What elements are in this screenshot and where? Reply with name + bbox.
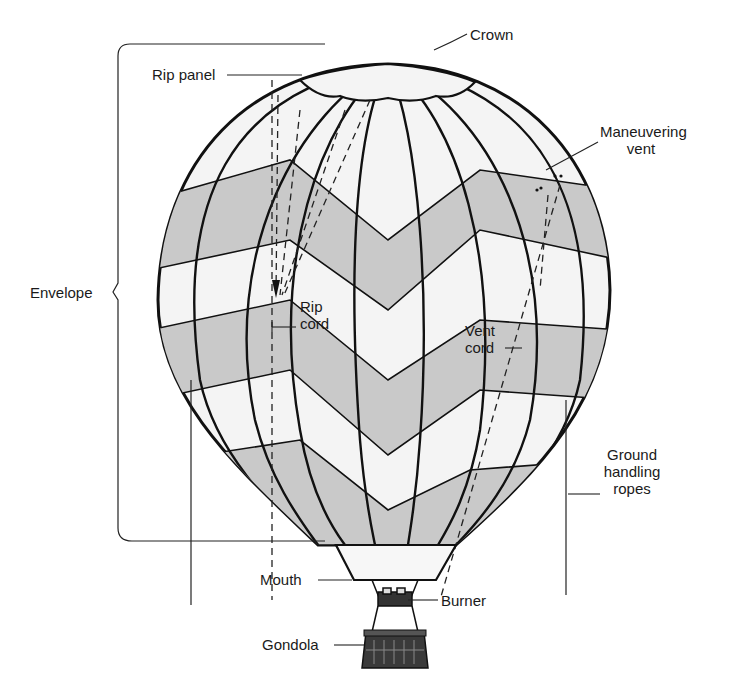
label-ground-handling-ropes: Ground handling ropes <box>596 446 668 497</box>
mouth <box>336 545 456 580</box>
label-ground-handling-ropes-line1: Ground <box>596 446 668 463</box>
label-rip-cord-line1: Rip <box>300 298 329 315</box>
label-vent-cord-line1: Vent <box>465 322 495 339</box>
label-vent-cord: Vent cord <box>465 322 495 356</box>
envelope <box>150 64 620 600</box>
balloon-illustration <box>0 0 734 695</box>
label-maneuvering-vent-line1: Maneuvering <box>600 123 682 140</box>
label-burner: Burner <box>441 592 486 609</box>
label-mouth: Mouth <box>260 571 302 588</box>
label-maneuvering-vent: Maneuvering vent <box>600 123 682 157</box>
label-crown: Crown <box>470 26 513 43</box>
label-maneuvering-vent-line2: vent <box>600 140 682 157</box>
label-vent-cord-line2: cord <box>465 339 495 356</box>
crown <box>300 64 475 101</box>
label-rip-cord: Rip cord <box>300 298 329 332</box>
gondola <box>362 630 428 668</box>
label-ground-handling-ropes-line2: handling <box>596 463 668 480</box>
label-rip-panel: Rip panel <box>152 66 215 83</box>
burner <box>372 580 418 632</box>
label-rip-cord-line2: cord <box>300 315 329 332</box>
label-ground-handling-ropes-line3: ropes <box>596 480 668 497</box>
label-envelope: Envelope <box>30 284 93 301</box>
label-gondola: Gondola <box>262 636 319 653</box>
